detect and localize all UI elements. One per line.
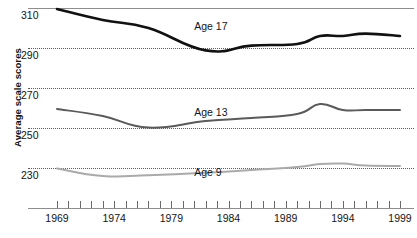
x-tick-1978 xyxy=(160,201,161,208)
series-line-age-17 xyxy=(57,9,400,52)
x-tick-label-1974: 1974 xyxy=(94,212,134,224)
x-tick-1988 xyxy=(274,201,275,208)
x-tick-1987 xyxy=(263,201,264,208)
x-tick-1989 xyxy=(286,201,287,208)
x-tick-1975 xyxy=(126,201,127,208)
x-tick-1998 xyxy=(389,201,390,208)
x-tick-1983 xyxy=(217,201,218,208)
x-tick-1980 xyxy=(183,201,184,208)
series-label-age-9: Age 9 xyxy=(194,166,221,178)
x-tick-1997 xyxy=(377,201,378,208)
x-tick-label-1989: 1989 xyxy=(266,212,306,224)
x-tick-1994 xyxy=(343,201,344,208)
x-tick-1976 xyxy=(137,201,138,208)
x-tick-1995 xyxy=(354,201,355,208)
x-tick-1974 xyxy=(114,201,115,208)
x-tick-1984 xyxy=(229,201,230,208)
x-tick-label-1979: 1979 xyxy=(151,212,191,224)
x-tick-1969 xyxy=(57,201,58,208)
x-axis-line xyxy=(28,208,414,209)
series-label-age-17: Age 17 xyxy=(194,20,227,32)
x-tick-1982 xyxy=(206,201,207,208)
x-tick-1999 xyxy=(400,201,401,208)
x-tick-1992 xyxy=(320,201,321,208)
x-tick-1971 xyxy=(80,201,81,208)
x-tick-1993 xyxy=(331,201,332,208)
x-tick-1991 xyxy=(309,201,310,208)
x-tick-1970 xyxy=(68,201,69,208)
x-tick-1977 xyxy=(148,201,149,208)
x-tick-1979 xyxy=(171,201,172,208)
x-tick-label-1969: 1969 xyxy=(37,212,77,224)
x-tick-1996 xyxy=(366,201,367,208)
x-tick-label-1999: 1999 xyxy=(380,212,417,224)
series-label-age-13: Age 13 xyxy=(194,106,227,118)
x-tick-1985 xyxy=(240,201,241,208)
series-line-age-9 xyxy=(57,163,400,176)
x-tick-1972 xyxy=(91,201,92,208)
series-line-age-13 xyxy=(57,104,400,128)
x-tick-1981 xyxy=(194,201,195,208)
x-tick-label-1984: 1984 xyxy=(209,212,249,224)
x-tick-1973 xyxy=(103,201,104,208)
line-chart: Average scale scores 310290270250230 Age… xyxy=(0,0,417,238)
x-tick-label-1994: 1994 xyxy=(323,212,363,224)
x-tick-1986 xyxy=(251,201,252,208)
x-tick-1990 xyxy=(297,201,298,208)
